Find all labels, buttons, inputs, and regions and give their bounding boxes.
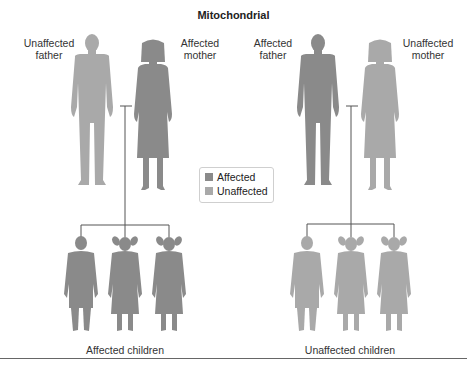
family2-child-boy — [290, 236, 324, 331]
family1-father-figure — [71, 34, 113, 185]
legend-label: Affected — [217, 171, 255, 183]
family2-child-girl — [377, 235, 411, 331]
family1-mother-figure — [134, 40, 172, 191]
family1-child-girl — [152, 235, 186, 331]
legend-label: Unaffected — [217, 185, 268, 197]
legend-item-unaffected: Unaffected — [205, 184, 273, 198]
family2-caption: Unaffected children — [280, 344, 420, 356]
affected-swatch-icon — [205, 173, 213, 181]
family2 — [290, 34, 411, 331]
legend-item-affected: Affected — [205, 170, 273, 184]
family1-child-girl — [108, 235, 142, 331]
family2-child-girl — [334, 235, 368, 331]
family1-child-boy — [64, 236, 98, 331]
family1 — [64, 34, 186, 331]
bottom-divider — [0, 358, 467, 359]
family1-caption: Affected children — [55, 344, 195, 356]
family2-father-figure — [297, 34, 339, 185]
legend: Affected Unaffected — [199, 167, 274, 203]
family2-mother-figure — [361, 40, 399, 191]
unaffected-swatch-icon — [205, 187, 213, 195]
